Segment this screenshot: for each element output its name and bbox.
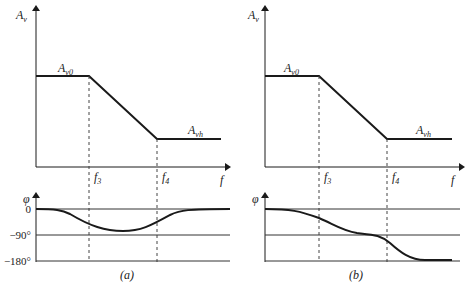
phase-tick-minus90: −90° xyxy=(9,229,31,241)
bode-diagram: Av f Av0 Avh f3 f4 φ 0 −90° −180° (a) xyxy=(0,0,468,283)
high-freq-label: Avh xyxy=(415,123,431,139)
caption-a: (a) xyxy=(120,268,134,282)
frequency-axis-label: f xyxy=(451,173,456,187)
amplitude-axis-label: Av xyxy=(15,8,27,24)
frequency-axis-label: f xyxy=(220,173,225,187)
phase-tick-0: 0 xyxy=(26,203,32,215)
f3-label: f3 xyxy=(94,170,101,186)
panel-a: Av f Av0 Avh f3 f4 φ 0 −90° −180° (a) xyxy=(4,8,230,282)
panel-b: Av f Av0 Avh f3 f4 φ (b) xyxy=(247,8,462,282)
plateau-label: Av0 xyxy=(57,61,73,77)
f4-label: f4 xyxy=(392,170,399,186)
amplitude-axis-label: Av xyxy=(247,8,259,24)
f4-label: f4 xyxy=(162,170,169,186)
phase-axis-label: φ xyxy=(252,192,259,206)
f3-label: f3 xyxy=(324,170,331,186)
high-freq-label: Avh xyxy=(187,123,203,139)
phase-tick-minus180: −180° xyxy=(4,255,31,267)
phase-curve xyxy=(36,209,230,231)
caption-b: (b) xyxy=(349,268,363,282)
plateau-label: Av0 xyxy=(283,61,299,77)
